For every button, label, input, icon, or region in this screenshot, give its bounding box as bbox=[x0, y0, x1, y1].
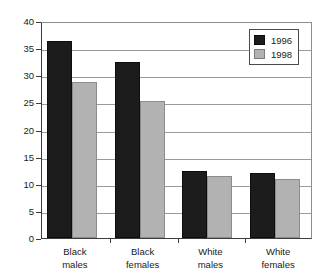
bar-1998-Black-females bbox=[140, 101, 165, 238]
y-axis-tick-label: 25 bbox=[0, 97, 41, 109]
y-axis-tick-label: 40 bbox=[0, 16, 41, 28]
x-axis-category-label-line: males bbox=[177, 258, 245, 271]
bar-1998-White-females bbox=[275, 179, 300, 238]
x-axis-category-label: Blackmales bbox=[41, 245, 109, 271]
legend-item-1998: 1998 bbox=[254, 47, 292, 61]
y-axis-tick-label: 15 bbox=[0, 152, 41, 164]
x-axis-separator-tick bbox=[178, 238, 179, 243]
x-axis-category-label-line: females bbox=[244, 258, 312, 271]
y-axis-tick-label: 30 bbox=[0, 70, 41, 82]
x-axis-category-label: Blackfemales bbox=[109, 245, 177, 271]
x-axis-category-label-line: males bbox=[41, 258, 109, 271]
x-axis-category-label-line: White bbox=[177, 245, 245, 258]
x-axis-category-label: Whitemales bbox=[177, 245, 245, 271]
x-axis-separator-tick bbox=[110, 238, 111, 243]
bar-1996-Black-males bbox=[47, 41, 72, 238]
y-axis-tick-label: 0 bbox=[0, 233, 41, 245]
y-axis-tick-label: 20 bbox=[0, 125, 41, 137]
bar-1998-Black-males bbox=[72, 82, 97, 238]
x-axis-category-label-line: Black bbox=[41, 245, 109, 258]
x-axis-category-label-line: females bbox=[109, 258, 177, 271]
legend-swatch-icon-1998 bbox=[254, 49, 265, 59]
x-axis-category-label-line: Black bbox=[109, 245, 177, 258]
legend-label-1998: 1998 bbox=[271, 49, 292, 60]
bar-1998-White-males bbox=[207, 176, 232, 238]
bar-chart: 0510152025303540 BlackmalesBlackfemalesW… bbox=[0, 0, 332, 280]
y-axis-tick-label: 10 bbox=[0, 179, 41, 191]
x-axis-category-label: Whitefemales bbox=[244, 245, 312, 271]
gridline bbox=[42, 77, 311, 78]
bar-1996-Black-females bbox=[115, 62, 140, 238]
legend-label-1996: 1996 bbox=[271, 35, 292, 46]
x-axis-category-label-line: White bbox=[244, 245, 312, 258]
legend-item-1996: 1996 bbox=[254, 33, 292, 47]
bar-1996-White-males bbox=[182, 171, 207, 238]
x-axis-separator-tick bbox=[245, 238, 246, 243]
y-axis-tick-mark bbox=[36, 239, 41, 240]
legend-swatch-icon-1996 bbox=[254, 35, 265, 45]
y-axis-tick-label: 35 bbox=[0, 43, 41, 55]
bar-1996-White-females bbox=[250, 173, 275, 238]
y-axis-tick-label: 5 bbox=[0, 206, 41, 218]
legend: 1996 1998 bbox=[249, 29, 299, 65]
